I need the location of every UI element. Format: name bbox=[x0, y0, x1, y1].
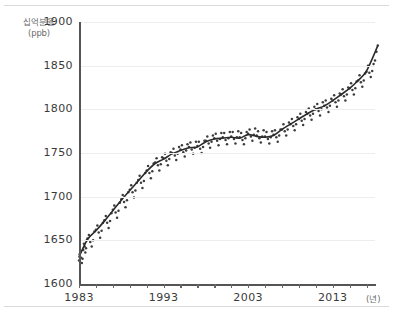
x-tick-mark bbox=[164, 284, 165, 288]
y-axis-tick-labels: 1900185018001750170016501600 bbox=[25, 0, 73, 319]
y-axis-line bbox=[79, 22, 81, 285]
gridline bbox=[79, 240, 375, 241]
x-tick-mark bbox=[367, 284, 368, 288]
gridline bbox=[79, 66, 375, 67]
y-tick-label: 1750 bbox=[27, 146, 73, 159]
gridline bbox=[79, 197, 375, 198]
y-tick-label: 1800 bbox=[27, 102, 73, 115]
x-tick-label: 2013 bbox=[318, 291, 348, 304]
gridline bbox=[79, 109, 375, 110]
x-tick-mark bbox=[282, 284, 283, 288]
x-tick-mark bbox=[350, 284, 351, 288]
gridline bbox=[79, 153, 375, 154]
x-axis-unit-label: (년) bbox=[366, 292, 381, 304]
x-tick-mark bbox=[197, 284, 198, 288]
x-tick-mark bbox=[316, 284, 317, 288]
y-tick-label: 1900 bbox=[27, 15, 73, 28]
x-tick-mark bbox=[231, 284, 232, 288]
x-axis-line bbox=[79, 284, 376, 286]
y-tick-label: 1650 bbox=[27, 233, 73, 246]
x-tick-mark bbox=[113, 284, 114, 288]
x-tick-label: 1983 bbox=[64, 291, 94, 304]
x-tick-mark bbox=[214, 284, 215, 288]
x-tick-mark bbox=[265, 284, 266, 288]
x-tick-mark bbox=[180, 284, 181, 288]
x-tick-mark bbox=[96, 284, 97, 288]
x-tick-label: 2003 bbox=[233, 291, 263, 304]
x-tick-label: 1993 bbox=[149, 291, 179, 304]
gridlines bbox=[79, 22, 375, 284]
x-tick-mark bbox=[79, 284, 80, 288]
x-tick-mark bbox=[130, 284, 131, 288]
gridline bbox=[79, 22, 375, 23]
plot-area bbox=[79, 22, 375, 284]
y-tick-label: 1700 bbox=[27, 190, 73, 203]
x-tick-mark bbox=[248, 284, 249, 288]
chart-figure: 십억분율 (ppb) 1900185018001750170016501600 … bbox=[0, 0, 393, 319]
x-tick-mark bbox=[299, 284, 300, 288]
x-tick-mark bbox=[333, 284, 334, 288]
y-tick-label: 1600 bbox=[27, 277, 73, 290]
y-tick-label: 1850 bbox=[27, 59, 73, 72]
x-tick-mark bbox=[147, 284, 148, 288]
